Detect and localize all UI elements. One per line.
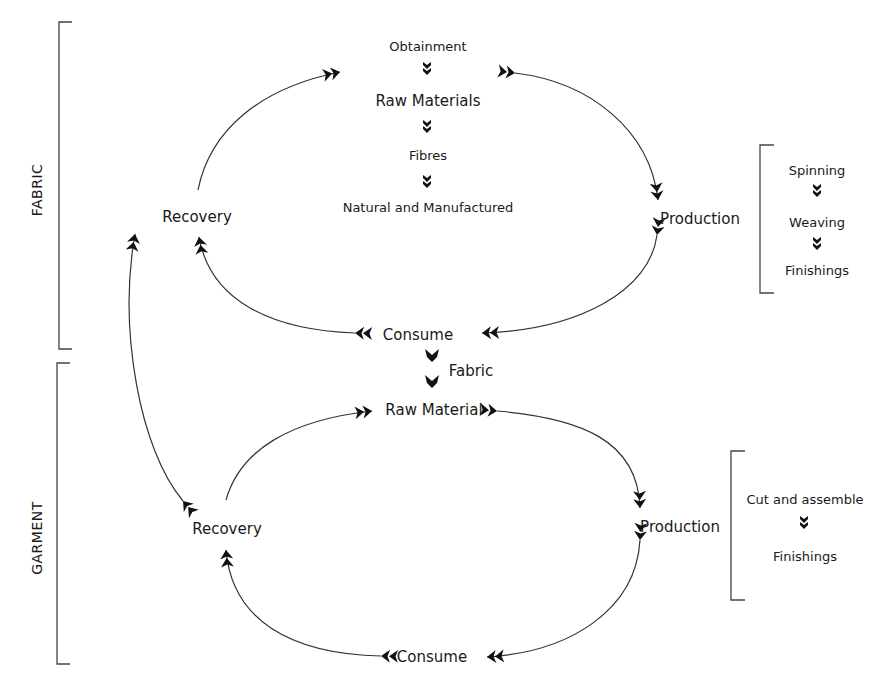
step-cut-and-assemble: Cut and assemble bbox=[746, 492, 863, 507]
node-fabric-recovery: Recovery bbox=[162, 208, 232, 226]
fabric-section-label: FABRIC bbox=[29, 164, 45, 217]
link-fabric-label: Fabric bbox=[449, 362, 494, 380]
fabric-production-bracket bbox=[760, 145, 774, 293]
node-fabric-production: Production bbox=[660, 210, 740, 228]
node-garment-raw-material: Raw Material bbox=[385, 401, 482, 419]
step-finishings: Finishings bbox=[785, 263, 849, 278]
node-obtainment: Obtainment bbox=[389, 39, 466, 54]
node-raw-materials: Raw Materials bbox=[375, 92, 480, 110]
garment-cycle-arrows bbox=[226, 411, 640, 657]
node-fibres: Fibres bbox=[409, 148, 447, 163]
node-fabric-consume: Consume bbox=[383, 326, 453, 344]
garment-production-bracket bbox=[731, 451, 745, 600]
arrow-g-recovery-to-raw-material bbox=[226, 411, 372, 500]
chain-chevrons bbox=[423, 62, 821, 529]
step-weaving: Weaving bbox=[789, 215, 845, 230]
node-garment-production: Production bbox=[640, 518, 720, 536]
arrow-g-raw-material-to-production bbox=[497, 411, 640, 508]
garment-section-label: GARMENT bbox=[29, 501, 45, 575]
node-garment-recovery: Recovery bbox=[192, 520, 262, 538]
fabric-link-chevrons bbox=[425, 349, 439, 388]
arrow-production-to-consume bbox=[482, 235, 657, 333]
node-natural-and-manufactured: Natural and Manufactured bbox=[343, 200, 514, 215]
fabric-bracket bbox=[59, 22, 72, 349]
arrow-recovery-to-raw-materials bbox=[198, 72, 340, 190]
node-garment-consume: Consume bbox=[397, 648, 467, 666]
step-spinning: Spinning bbox=[789, 163, 846, 178]
arrow-g-consume-to-recovery bbox=[226, 550, 381, 656]
step-garment-finishings: Finishings bbox=[773, 549, 837, 564]
recovery-link-arrow bbox=[129, 234, 183, 501]
arrow-raw-materials-to-production bbox=[515, 73, 658, 200]
arrow-g-production-to-consume bbox=[487, 540, 640, 657]
garment-bracket bbox=[57, 363, 70, 664]
arrow-consume-to-recovery bbox=[199, 237, 355, 333]
